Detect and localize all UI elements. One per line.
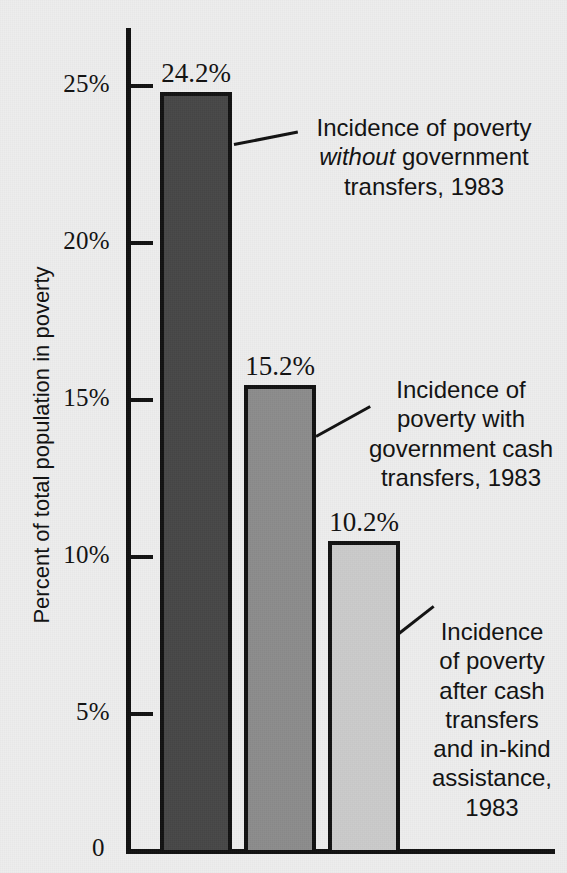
poverty-incidence-bar-chart: Percent of total population in poverty 2… <box>0 0 567 873</box>
y-tick-label-5: 5% <box>48 698 110 726</box>
annotation-1-line-2: without government <box>300 142 548 171</box>
y-tick-5 <box>131 712 153 716</box>
y-tick-label-15: 15% <box>48 384 110 412</box>
bar-after-cash-and-inkind <box>328 541 400 854</box>
annotation-2-line-2: poverty with <box>362 404 560 433</box>
bar-with-cash-transfers <box>244 385 316 854</box>
y-tick-label-20: 20% <box>48 227 110 255</box>
bar-value-label-3: 10.2% <box>316 507 412 538</box>
annotation-3-line-5: and in-kind <box>422 734 562 763</box>
annotation-2-line-4: transfers, 1983 <box>362 463 560 492</box>
annotation-2-line-1: Incidence of <box>362 375 560 404</box>
annotation-1-line-2-rest: government <box>395 143 528 170</box>
annotation-1-line-3: transfers, 1983 <box>300 172 548 201</box>
annotation-3-line-6: assistance, <box>422 763 562 792</box>
y-axis-title: Percent of total population in poverty <box>29 235 55 655</box>
annotation-3-line-4: transfers <box>422 705 562 734</box>
annotation-without-transfers: Incidence of poverty without government … <box>300 113 548 201</box>
annotation-3-line-3: after cash <box>422 676 562 705</box>
annotation-1-italic-word: without <box>319 143 395 170</box>
y-tick-label-10: 10% <box>48 541 110 569</box>
leader-line-1 <box>234 131 298 146</box>
annotation-3-line-7: 1983 <box>422 793 562 822</box>
annotation-after-cash-and-inkind: Incidence of poverty after cash transfer… <box>422 617 562 822</box>
annotation-1-line-1: Incidence of poverty <box>300 113 548 142</box>
y-tick-10 <box>131 555 153 559</box>
annotation-2-line-3: government cash <box>362 434 560 463</box>
annotation-with-cash-transfers: Incidence of poverty with government cas… <box>362 375 560 492</box>
y-tick-label-0: 0 <box>92 834 105 862</box>
y-tick-label-25: 25% <box>48 70 110 98</box>
y-tick-15 <box>131 398 153 402</box>
bar-value-label-2: 15.2% <box>232 351 328 382</box>
bar-without-transfers <box>160 92 232 854</box>
bar-value-label-1: 24.2% <box>148 58 244 89</box>
y-tick-20 <box>131 241 153 245</box>
annotation-3-line-2: of poverty <box>422 646 562 675</box>
y-axis-line <box>126 28 131 854</box>
annotation-3-line-1: Incidence <box>422 617 562 646</box>
